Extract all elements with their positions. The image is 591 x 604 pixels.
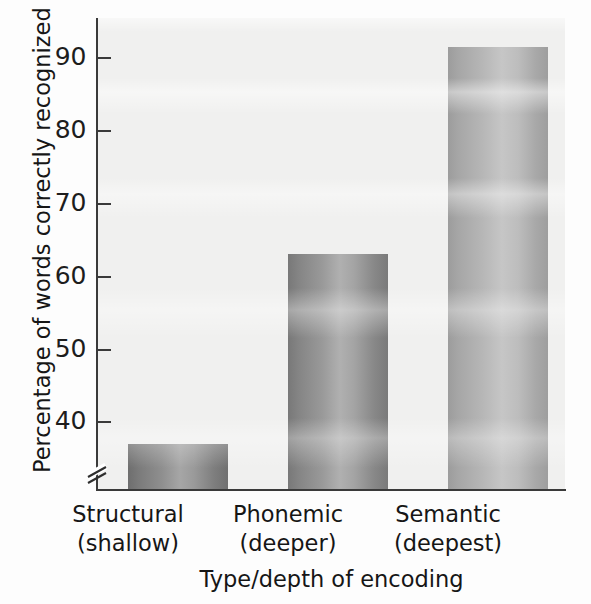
x-category-line1: Structural: [72, 501, 183, 527]
bar-chart-figure: 90 80 70 60 50 40 Percentage of words co…: [0, 0, 591, 604]
plot-area: [98, 18, 565, 489]
x-category-label-semantic: Semantic (deepest): [353, 500, 543, 557]
bar-structural: [128, 444, 228, 489]
bar-semantic: [448, 47, 548, 489]
y-axis-title: Percentage of words correctly recognized: [29, 33, 55, 473]
x-axis-line: [96, 489, 566, 491]
axis-break-icon: [86, 462, 110, 484]
y-axis-line: [96, 18, 98, 491]
x-category-line2: (deepest): [353, 529, 543, 558]
x-axis-title: Type/depth of encoding: [98, 566, 565, 592]
x-category-line1: Semantic: [395, 501, 501, 527]
bar-phonemic: [288, 254, 388, 490]
x-category-line1: Phonemic: [233, 501, 343, 527]
